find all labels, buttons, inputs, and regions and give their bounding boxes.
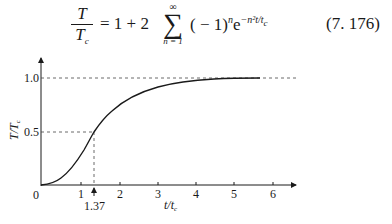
y-tick-1-0: 1.0 bbox=[24, 71, 39, 85]
y-tick-0-5: 0.5 bbox=[24, 125, 39, 139]
x-tick-5: 5 bbox=[231, 187, 237, 201]
chart: 0 1 2 3 4 5 6 1.37 1.0 0.5 t/tc T/Tc bbox=[0, 0, 392, 224]
x-tick-6: 6 bbox=[270, 187, 276, 201]
x-tick-4: 4 bbox=[193, 187, 199, 201]
curve-T-over-Tc bbox=[41, 78, 260, 185]
y-axis-label: T/Tc bbox=[7, 119, 22, 140]
x-tick-3: 3 bbox=[155, 187, 161, 201]
x-axis-label: t/tc bbox=[164, 198, 178, 213]
marker-label: 1.37 bbox=[84, 199, 105, 213]
origin-label: 0 bbox=[33, 188, 39, 202]
x-tick-2: 2 bbox=[117, 187, 123, 201]
